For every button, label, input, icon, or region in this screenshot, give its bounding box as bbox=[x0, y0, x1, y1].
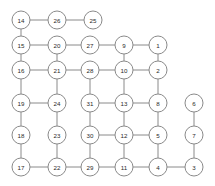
node-circle[interactable] bbox=[81, 36, 99, 54]
graph-node-13[interactable]: 13 bbox=[115, 94, 133, 112]
graph-diagram: 1426251520279116212810219243113861823301… bbox=[0, 0, 215, 186]
node-circle[interactable] bbox=[149, 126, 167, 144]
node-circle[interactable] bbox=[48, 36, 66, 54]
node-circle[interactable] bbox=[12, 36, 30, 54]
graph-node-30[interactable]: 30 bbox=[81, 126, 99, 144]
node-circle[interactable] bbox=[12, 94, 30, 112]
node-circle[interactable] bbox=[185, 126, 203, 144]
graph-node-22[interactable]: 22 bbox=[48, 158, 66, 176]
graph-node-4[interactable]: 4 bbox=[149, 158, 167, 176]
node-layer: 1426251520279116212810219243113861823301… bbox=[12, 11, 203, 176]
graph-node-8[interactable]: 8 bbox=[149, 94, 167, 112]
graph-node-27[interactable]: 27 bbox=[81, 36, 99, 54]
graph-node-1[interactable]: 1 bbox=[149, 36, 167, 54]
node-circle[interactable] bbox=[149, 94, 167, 112]
graph-node-3[interactable]: 3 bbox=[185, 158, 203, 176]
node-circle[interactable] bbox=[149, 158, 167, 176]
node-circle[interactable] bbox=[185, 158, 203, 176]
node-circle[interactable] bbox=[48, 158, 66, 176]
graph-node-14[interactable]: 14 bbox=[12, 11, 30, 29]
graph-node-23[interactable]: 23 bbox=[48, 126, 66, 144]
graph-node-24[interactable]: 24 bbox=[48, 94, 66, 112]
node-circle[interactable] bbox=[12, 11, 30, 29]
graph-node-12[interactable]: 12 bbox=[115, 126, 133, 144]
graph-node-26[interactable]: 26 bbox=[48, 11, 66, 29]
graph-node-9[interactable]: 9 bbox=[115, 36, 133, 54]
node-circle[interactable] bbox=[84, 11, 102, 29]
graph-canvas-svg: 1426251520279116212810219243113861823301… bbox=[0, 0, 215, 186]
node-circle[interactable] bbox=[115, 94, 133, 112]
node-circle[interactable] bbox=[12, 126, 30, 144]
node-circle[interactable] bbox=[48, 126, 66, 144]
graph-node-15[interactable]: 15 bbox=[12, 36, 30, 54]
graph-node-20[interactable]: 20 bbox=[48, 36, 66, 54]
graph-node-25[interactable]: 25 bbox=[84, 11, 102, 29]
graph-node-28[interactable]: 28 bbox=[81, 61, 99, 79]
graph-node-19[interactable]: 19 bbox=[12, 94, 30, 112]
graph-node-7[interactable]: 7 bbox=[185, 126, 203, 144]
node-circle[interactable] bbox=[185, 94, 203, 112]
node-circle[interactable] bbox=[48, 11, 66, 29]
edge-layer bbox=[21, 20, 194, 167]
node-circle[interactable] bbox=[149, 61, 167, 79]
graph-node-2[interactable]: 2 bbox=[149, 61, 167, 79]
node-circle[interactable] bbox=[81, 61, 99, 79]
graph-node-5[interactable]: 5 bbox=[149, 126, 167, 144]
node-circle[interactable] bbox=[115, 61, 133, 79]
graph-node-10[interactable]: 10 bbox=[115, 61, 133, 79]
node-circle[interactable] bbox=[12, 61, 30, 79]
node-circle[interactable] bbox=[115, 36, 133, 54]
node-circle[interactable] bbox=[81, 94, 99, 112]
graph-node-6[interactable]: 6 bbox=[185, 94, 203, 112]
node-circle[interactable] bbox=[81, 158, 99, 176]
node-circle[interactable] bbox=[48, 61, 66, 79]
node-circle[interactable] bbox=[115, 158, 133, 176]
node-circle[interactable] bbox=[149, 36, 167, 54]
graph-node-29[interactable]: 29 bbox=[81, 158, 99, 176]
graph-node-21[interactable]: 21 bbox=[48, 61, 66, 79]
graph-node-16[interactable]: 16 bbox=[12, 61, 30, 79]
node-circle[interactable] bbox=[12, 158, 30, 176]
graph-node-18[interactable]: 18 bbox=[12, 126, 30, 144]
graph-node-31[interactable]: 31 bbox=[81, 94, 99, 112]
graph-node-17[interactable]: 17 bbox=[12, 158, 30, 176]
graph-node-11[interactable]: 11 bbox=[115, 158, 133, 176]
node-circle[interactable] bbox=[115, 126, 133, 144]
node-circle[interactable] bbox=[48, 94, 66, 112]
node-circle[interactable] bbox=[81, 126, 99, 144]
